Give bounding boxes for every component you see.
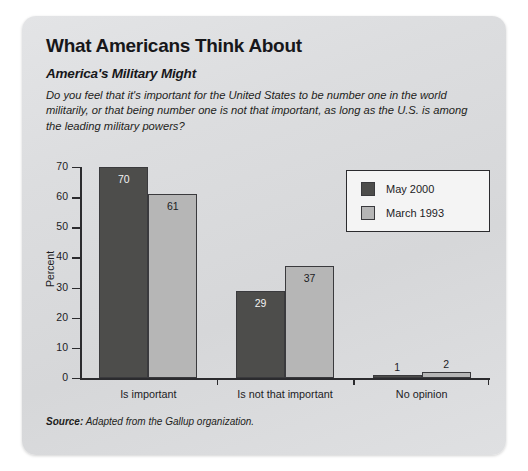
y-tick-mark [72,318,80,319]
y-tick-mark [72,348,80,349]
x-category-label: Is not that important [237,388,332,400]
bar-march-1993: 2 [422,372,471,378]
legend-item-series-1: May 2000 [361,182,434,196]
y-tick-mark [72,227,80,228]
chart-plot-area: Percent 010203040506070 7061293712 Is im… [22,16,506,455]
bar-value-label: 2 [423,359,470,370]
source-note: Source: Adapted from the Gallup organiza… [46,416,254,427]
y-axis-title: Percent [44,251,56,287]
y-tick-mark [72,288,80,289]
y-tick-mark [72,257,80,258]
x-category-label: No opinion [396,388,448,400]
y-axis-line [80,167,82,378]
legend-swatch-icon [361,206,375,220]
legend-label: March 1993 [386,207,444,219]
chart-card: What Americans Think About America's Mil… [22,16,506,455]
y-tick-label: 20 [56,311,68,323]
x-tick-mark [217,378,218,385]
y-tick-label: 50 [56,220,68,232]
y-tick-mark [72,378,80,379]
bar-value-label: 37 [286,273,333,284]
y-tick-label: 30 [56,281,68,293]
y-tick-label: 70 [56,160,68,172]
chart-legend: May 2000 March 1993 [346,170,490,232]
legend-item-series-2: March 1993 [361,206,444,220]
y-tick-label: 60 [56,190,68,202]
source-text: Adapted from the Gallup organization. [86,416,254,427]
legend-label: May 2000 [386,183,434,195]
y-tick-label: 10 [56,341,68,353]
y-tick-mark [72,167,80,168]
y-tick-mark [72,197,80,198]
bar-value-label: 29 [237,298,284,309]
bar-march-1993: 37 [285,266,334,378]
bar-value-label: 70 [100,174,147,185]
bar-may-2000: 70 [99,167,148,378]
x-tick-mark [488,378,489,385]
y-tick-label: 40 [56,250,68,262]
legend-swatch-icon [361,182,375,196]
bar-value-label: 61 [149,201,196,212]
source-keyword: Source: [46,416,83,427]
y-tick-label: 0 [62,371,68,383]
x-tick-mark [353,378,354,385]
x-category-label: Is important [120,388,176,400]
bar-may-2000: 29 [236,291,285,378]
bar-may-2000: 1 [373,375,422,378]
x-axis-line [80,378,490,380]
bar-value-label: 1 [374,362,421,373]
bar-march-1993: 61 [148,194,197,378]
